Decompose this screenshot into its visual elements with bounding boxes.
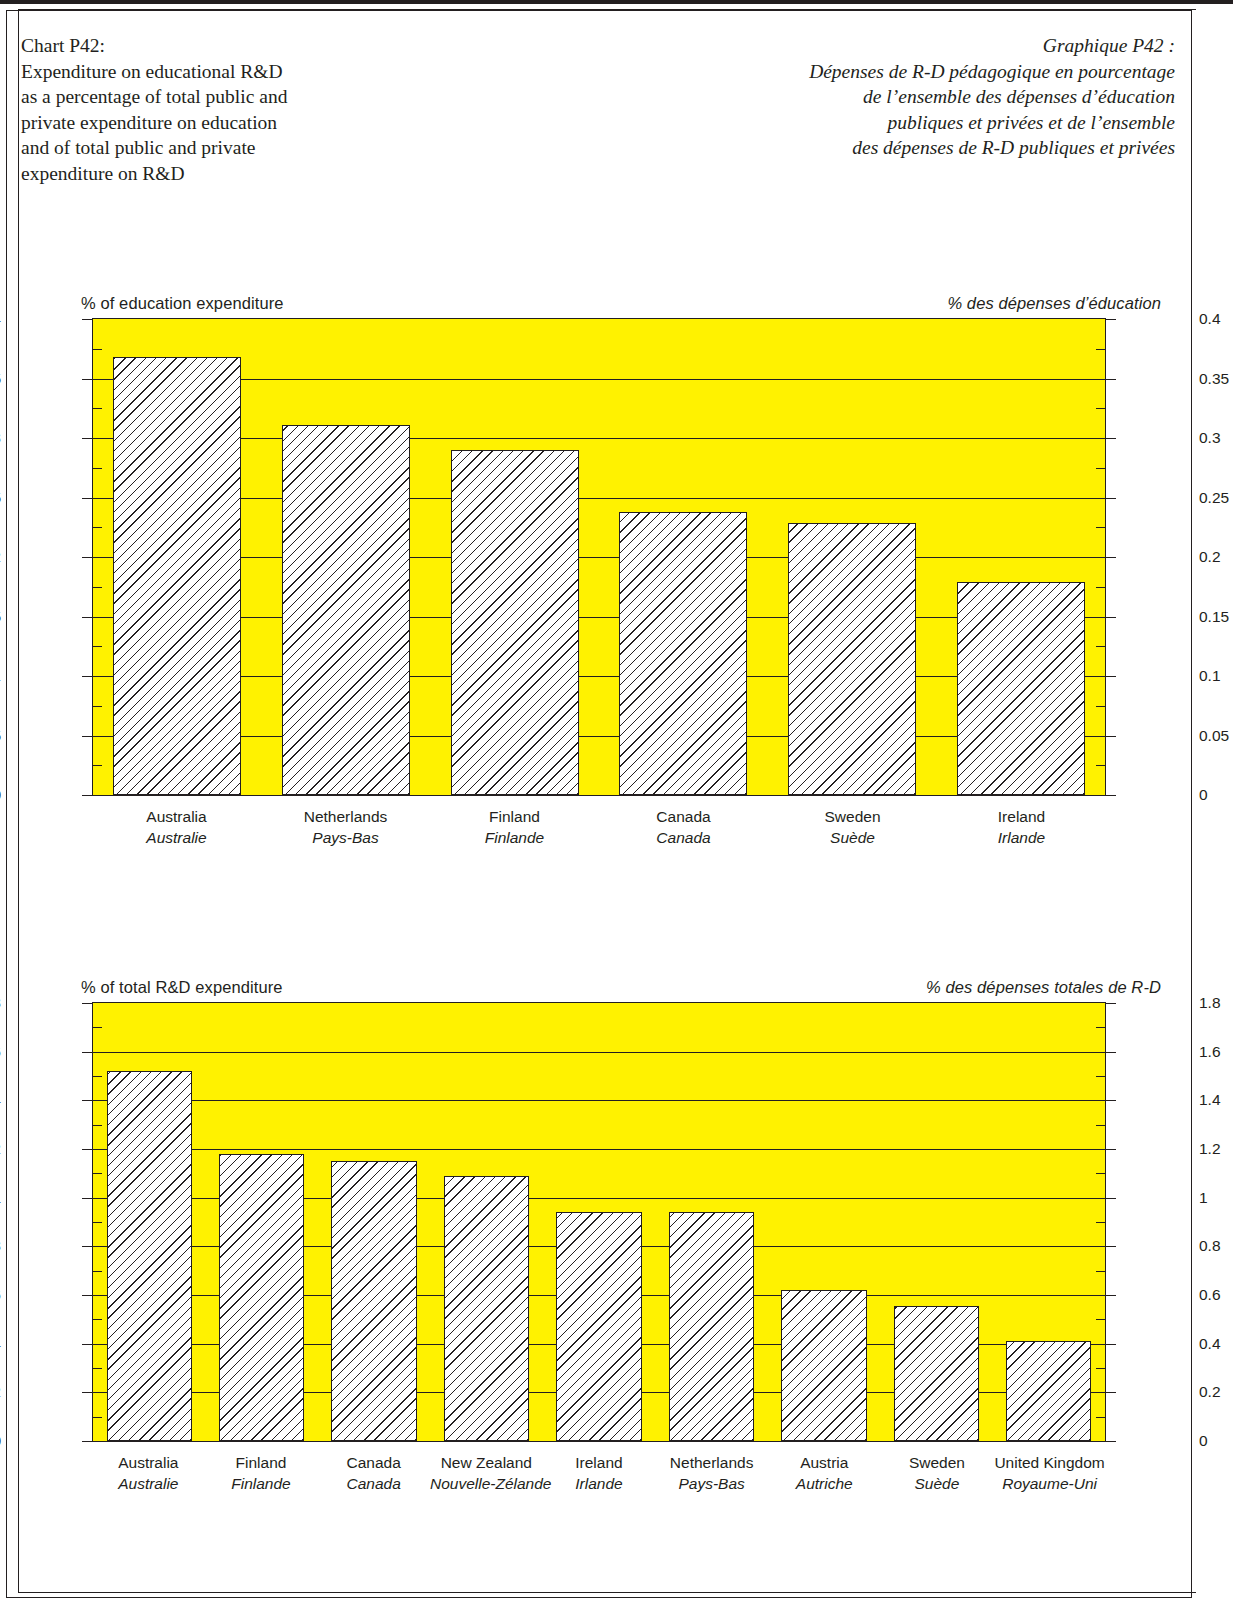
y-axis-tick-label-left: 0.15 <box>0 608 1 626</box>
chart1-plot-area: 000.050.050.10.10.150.150.20.20.250.250.… <box>92 318 1106 796</box>
chart2-caption-left: % of total R&D expenditure <box>81 978 283 997</box>
bar-slot <box>599 319 768 795</box>
y-axis-tick-label-left: 0.1 <box>0 667 1 685</box>
axis-tick-minor <box>93 1027 102 1028</box>
axis-tick-major <box>82 1392 93 1393</box>
axis-tick-major <box>82 1003 93 1004</box>
axis-tick-major <box>1105 1392 1116 1393</box>
title-french: Graphique P42 : Dépenses de R-D pédagogi… <box>555 33 1175 161</box>
y-axis-tick-label-left: 0 <box>0 1432 1 1450</box>
axis-tick-minor <box>93 646 102 647</box>
axis-tick-minor <box>93 408 102 409</box>
axis-tick-major <box>82 617 93 618</box>
axis-tick-major <box>1105 498 1116 499</box>
y-axis-tick-label-right: 0.4 <box>1199 1335 1233 1353</box>
axis-tick-minor <box>93 349 102 350</box>
axis-tick-major <box>82 1441 93 1442</box>
x-label-french: Suède <box>881 1473 994 1494</box>
bar-slot <box>205 1003 317 1441</box>
y-axis-tick-label-left: 1.6 <box>0 1043 1 1061</box>
bar-slot <box>880 1003 992 1441</box>
axis-tick-minor <box>1096 1319 1105 1320</box>
x-label-french: Australie <box>92 827 261 848</box>
axis-tick-minor <box>1096 1271 1105 1272</box>
x-axis-label-finland: FinlandFinlande <box>430 806 599 848</box>
axis-tick-major <box>1105 557 1116 558</box>
axis-tick-major <box>82 1100 93 1101</box>
y-axis-tick-label-left: 0.35 <box>0 370 1 388</box>
x-label-english: Netherlands <box>655 1452 768 1473</box>
x-label-english: Sweden <box>768 806 937 827</box>
axis-tick-major <box>82 736 93 737</box>
bar-slot <box>543 1003 655 1441</box>
y-axis-tick-label-right: 0 <box>1199 786 1233 804</box>
chart1-x-axis-labels: AustraliaAustralieNetherlandsPays-BasFin… <box>92 806 1106 848</box>
x-label-french: Finlande <box>430 827 599 848</box>
axis-tick-major <box>82 498 93 499</box>
y-axis-tick-label-right: 0.1 <box>1199 667 1233 685</box>
bar <box>444 1176 529 1441</box>
chart-education-expenditure: % of education expenditure % des dépense… <box>7 294 1193 904</box>
y-axis-tick-label-right: 0.25 <box>1199 489 1233 507</box>
x-label-french: Australie <box>92 1473 205 1494</box>
bar <box>957 582 1085 795</box>
x-label-english: Sweden <box>881 1452 994 1473</box>
axis-tick-major <box>1105 676 1116 677</box>
bar-slot <box>93 1003 205 1441</box>
chart-total-rd-expenditure: % of total R&D expenditure % des dépense… <box>7 978 1193 1558</box>
y-axis-tick-label-left: 0 <box>0 786 1 804</box>
page-top-rule <box>0 0 1233 4</box>
x-label-english: Ireland <box>937 806 1106 827</box>
y-axis-tick-label-right: 0.2 <box>1199 1383 1233 1401</box>
y-axis-tick-label-right: 0 <box>1199 1432 1233 1450</box>
axis-tick-major <box>82 319 93 320</box>
y-axis-tick-label-right: 1.4 <box>1199 1091 1233 1109</box>
x-axis-label-ireland: IrelandIrlande <box>543 1452 656 1494</box>
bar <box>781 1290 866 1441</box>
x-axis-label-netherlands: NetherlandsPays-Bas <box>655 1452 768 1494</box>
x-label-english: Ireland <box>543 1452 656 1473</box>
axis-tick-major <box>82 1149 93 1150</box>
axis-tick-minor <box>1096 1125 1105 1126</box>
bar-slot <box>93 319 262 795</box>
axis-tick-major <box>1105 736 1116 737</box>
y-axis-tick-label-right: 0.8 <box>1199 1237 1233 1255</box>
y-axis-tick-label-left: 0.8 <box>0 1237 1 1255</box>
axis-tick-minor <box>93 1319 102 1320</box>
axis-tick-major <box>82 438 93 439</box>
y-axis-tick-label-left: 0.2 <box>0 1383 1 1401</box>
y-axis-tick-label-left: 1.8 <box>0 994 1 1012</box>
axis-tick-minor <box>1096 587 1105 588</box>
y-axis-tick-label-left: 0.4 <box>0 1335 1 1353</box>
chart2-caption-right: % des dépenses totales de R-D <box>926 978 1161 997</box>
chart-titles: Chart P42: Expenditure on educational R&… <box>7 11 1193 191</box>
x-label-french: Pays-Bas <box>655 1473 768 1494</box>
axis-tick-major <box>1105 1149 1116 1150</box>
chart1-bars <box>93 319 1105 795</box>
bar-slot <box>768 1003 880 1441</box>
y-axis-tick-label-right: 0.15 <box>1199 608 1233 626</box>
chart1-caption-right: % des dépenses d’éducation <box>947 294 1161 313</box>
axis-tick-major <box>1105 1003 1116 1004</box>
bar <box>113 357 241 795</box>
page-frame: Chart P42: Expenditure on educational R&… <box>6 10 1192 1598</box>
y-axis-tick-label-right: 1.6 <box>1199 1043 1233 1061</box>
axis-tick-minor <box>1096 1173 1105 1174</box>
axis-tick-major <box>1105 379 1116 380</box>
axis-tick-minor <box>1096 706 1105 707</box>
bar <box>556 1212 641 1441</box>
y-axis-tick-label-right: 0.05 <box>1199 727 1233 745</box>
axis-tick-minor <box>93 468 102 469</box>
y-axis-tick-label-right: 0.4 <box>1199 310 1233 328</box>
bar-slot <box>768 319 937 795</box>
bar <box>219 1154 304 1441</box>
x-axis-label-netherlands: NetherlandsPays-Bas <box>261 806 430 848</box>
axis-tick-major <box>82 1246 93 1247</box>
axis-tick-minor <box>93 1125 102 1126</box>
y-axis-tick-label-left: 0.2 <box>0 548 1 566</box>
axis-tick-minor <box>1096 1222 1105 1223</box>
axis-tick-minor <box>1096 765 1105 766</box>
axis-tick-major <box>82 1295 93 1296</box>
axis-tick-major <box>1105 617 1116 618</box>
axis-tick-major <box>1105 1344 1116 1345</box>
